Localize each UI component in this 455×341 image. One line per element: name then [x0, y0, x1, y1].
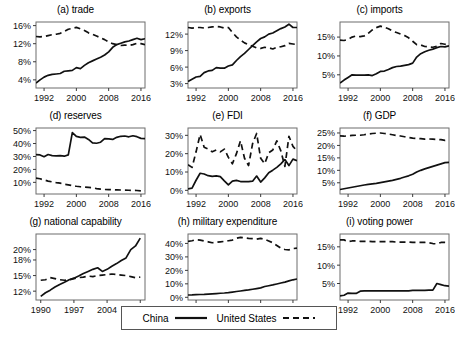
- series-line-china: [36, 133, 145, 157]
- y-tick-label: 15%: [317, 153, 335, 163]
- x-tick-label: 2016: [435, 305, 455, 315]
- x-tick-label: 2016: [283, 93, 303, 103]
- y-tick-label: 40%: [165, 239, 183, 249]
- y-tick-label: 9%: [170, 46, 183, 56]
- plot-area: 5%10%15%20%25%1992200020082016: [304, 124, 455, 214]
- series-line-united-states: [188, 237, 297, 250]
- series-line-china: [340, 284, 449, 296]
- y-tick-label: 30%: [165, 252, 183, 262]
- series-line-china: [188, 159, 297, 189]
- x-tick-label: 1992: [34, 93, 54, 103]
- series-line-united-states: [188, 134, 297, 168]
- series-line-united-states: [340, 26, 449, 47]
- legend-label-united-states: United States: [217, 313, 277, 324]
- x-tick-label: 1992: [338, 93, 358, 103]
- x-tick-label: 1992: [186, 199, 206, 209]
- y-tick-label: 30%: [13, 152, 31, 162]
- plot-area: 5%10%15%1992200020082016: [304, 18, 455, 108]
- legend-key-solid-line: [174, 313, 208, 323]
- panel-title: (g) national capability: [0, 216, 151, 228]
- panel-title: (i) voting power: [304, 216, 455, 228]
- y-tick-label: 20%: [165, 266, 183, 276]
- series-line-china: [340, 162, 449, 189]
- x-tick-label: 1997: [64, 305, 84, 315]
- x-tick-label: 2016: [435, 93, 455, 103]
- x-tick-label: 2000: [66, 93, 86, 103]
- y-tick-label: 18%: [13, 255, 31, 265]
- y-tick-label: 10%: [165, 167, 183, 177]
- y-tick-label: 50%: [13, 126, 31, 136]
- y-tick-label: 20%: [317, 141, 335, 151]
- x-tick-label: 2000: [66, 199, 86, 209]
- panel-f-gdp: (f) GDP5%10%15%20%25%1992200020082016: [304, 110, 455, 215]
- x-tick-label: 2008: [99, 93, 119, 103]
- legend: China United States: [121, 306, 337, 330]
- series-line-china: [188, 24, 297, 81]
- y-tick-label: 10%: [317, 51, 335, 61]
- legend-key-dashed-line: [282, 313, 316, 323]
- y-tick-label: 3%: [170, 79, 183, 89]
- x-tick-label: 2000: [218, 199, 238, 209]
- y-tick-label: 10%: [165, 279, 183, 289]
- panel-title: (b) exports: [152, 4, 303, 16]
- panel-title: (e) FDI: [152, 110, 303, 122]
- plot-area: 3%6%9%12%1992200020082016: [152, 18, 303, 108]
- series-line-china: [188, 279, 297, 295]
- y-tick-label: 5%: [322, 70, 335, 80]
- panel-a-trade: (a) trade4%8%12%16%1992200020082016: [0, 4, 151, 109]
- series-line-united-states: [340, 133, 449, 140]
- y-tick-label: 6%: [170, 63, 183, 73]
- x-tick-label: 2008: [403, 305, 423, 315]
- y-tick-label: 15%: [13, 271, 31, 281]
- plot-area: 10%20%30%40%50%1992200020082016: [0, 124, 151, 214]
- x-tick-label: 2016: [131, 93, 151, 103]
- x-tick-label: 2008: [403, 199, 423, 209]
- plot-area: 0%10%20%30%1992200020082016: [152, 124, 303, 214]
- x-tick-label: 2016: [131, 199, 151, 209]
- panel-c-imports: (c) imports5%10%15%1992200020082016: [304, 4, 455, 109]
- x-tick-label: 2000: [218, 93, 238, 103]
- x-tick-label: 1992: [338, 199, 358, 209]
- x-tick-label: 2016: [435, 199, 455, 209]
- series-line-united-states: [340, 240, 449, 244]
- y-tick-label: 10%: [13, 178, 31, 188]
- y-tick-label: 4%: [18, 75, 31, 85]
- panel-title: (c) imports: [304, 4, 455, 16]
- y-tick-label: 5%: [322, 279, 335, 289]
- y-tick-label: 20%: [13, 245, 31, 255]
- figure-panel-grid: (a) trade4%8%12%16%1992200020082016 (b) …: [0, 0, 455, 341]
- x-tick-label: 2008: [251, 93, 271, 103]
- legend-entry-china: China: [142, 313, 207, 324]
- x-tick-label: 1992: [34, 199, 54, 209]
- y-tick-label: 20%: [165, 149, 183, 159]
- y-tick-label: 30%: [165, 131, 183, 141]
- panel-e-fdi: (e) FDI0%10%20%30%1992200020082016: [152, 110, 303, 215]
- y-tick-label: 8%: [18, 57, 31, 67]
- y-tick-label: 10%: [317, 166, 335, 176]
- y-tick-label: 16%: [13, 21, 31, 31]
- x-tick-label: 2004: [97, 305, 117, 315]
- panel-title: (a) trade: [0, 4, 151, 16]
- y-tick-label: 40%: [13, 139, 31, 149]
- x-tick-label: 2008: [251, 199, 271, 209]
- series-line-china: [41, 238, 141, 296]
- x-tick-label: 2000: [370, 199, 390, 209]
- y-tick-label: 12%: [165, 30, 183, 40]
- y-tick-label: 12%: [13, 39, 31, 49]
- panel-title: (f) GDP: [304, 110, 455, 122]
- x-tick-label: 1992: [338, 305, 358, 315]
- y-tick-label: 25%: [317, 128, 335, 138]
- series-line-united-states: [41, 274, 141, 280]
- x-tick-label: 1990: [31, 305, 51, 315]
- x-tick-label: 2016: [283, 199, 303, 209]
- x-tick-label: 2008: [99, 199, 119, 209]
- x-tick-label: 2008: [403, 93, 423, 103]
- x-tick-label: 2000: [370, 93, 390, 103]
- panel-title: (d) reserves: [0, 110, 151, 122]
- plot-area: 4%8%12%16%1992200020082016: [0, 18, 151, 108]
- x-tick-label: 2000: [370, 305, 390, 315]
- panel-b-exports: (b) exports3%6%9%12%1992200020082016: [152, 4, 303, 109]
- y-tick-label: 12%: [13, 287, 31, 297]
- y-tick-label: 15%: [317, 242, 335, 252]
- y-tick-label: 10%: [317, 261, 335, 271]
